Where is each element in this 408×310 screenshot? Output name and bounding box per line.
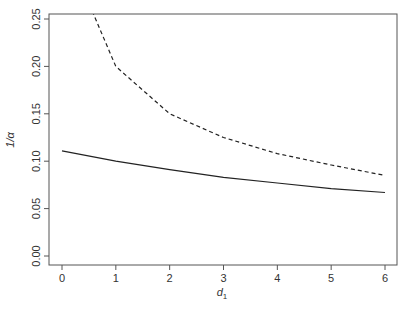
y-tick-label: 0.05 <box>30 198 42 219</box>
y-tick-label: 0.10 <box>30 150 42 171</box>
y-axis: 0.000.050.100.150.200.25 <box>30 8 49 266</box>
x-tick-label: 6 <box>382 272 388 284</box>
y-axis-title: 1/α <box>4 132 16 148</box>
x-axis-title: d1 <box>217 286 228 301</box>
x-tick-label: 3 <box>220 272 226 284</box>
y-tick-label: 0.20 <box>30 56 42 77</box>
x-tick-label: 5 <box>328 272 334 284</box>
y-tick-label: 0.25 <box>30 8 42 29</box>
series-dashed-line <box>62 0 385 175</box>
plot-frame <box>49 14 397 265</box>
x-tick-label: 4 <box>274 272 280 284</box>
plot-area <box>62 0 385 192</box>
line-chart: 0123456 0.000.050.100.150.200.25 d1 1/α <box>0 0 408 310</box>
x-tick-label: 0 <box>59 272 65 284</box>
series-solid-line <box>62 151 385 193</box>
x-axis: 0123456 <box>59 265 388 284</box>
y-tick-label: 0.15 <box>30 103 42 124</box>
x-tick-label: 1 <box>113 272 119 284</box>
x-tick-label: 2 <box>167 272 173 284</box>
y-tick-label: 0.00 <box>30 245 42 266</box>
